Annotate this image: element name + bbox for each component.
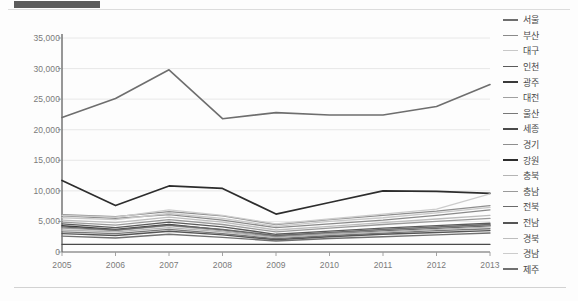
x-axis-label: 2009 — [253, 260, 299, 270]
x-axis-label: 2008 — [200, 260, 246, 270]
x-axis-label: 2010 — [307, 260, 353, 270]
x-axis-label: 2006 — [93, 260, 139, 270]
legend-label: 제주 — [523, 263, 539, 276]
legend-label: 전남 — [523, 216, 539, 229]
legend-color-swatch — [503, 206, 518, 207]
legend-color-swatch — [503, 97, 518, 98]
legend-label: 광주 — [523, 76, 539, 89]
chart-legend: 서울부산대구인천광주대전울산세종경기강원충북충남전북전남경북경남제주 — [503, 12, 578, 277]
legend-label: 인천 — [523, 60, 539, 73]
legend-color-swatch — [503, 253, 518, 254]
legend-item[interactable]: 충북 — [503, 168, 578, 184]
legend-item[interactable]: 전남 — [503, 215, 578, 231]
legend-label: 부산 — [523, 29, 539, 42]
legend-label: 경기 — [523, 138, 539, 151]
legend-item[interactable]: 강원 — [503, 152, 578, 168]
legend-item[interactable]: 광주 — [503, 74, 578, 90]
legend-label: 세종 — [523, 122, 539, 135]
legend-item[interactable]: 인천 — [503, 59, 578, 75]
legend-label: 충남 — [523, 185, 539, 198]
legend-color-swatch — [503, 81, 518, 83]
legend-item[interactable]: 울산 — [503, 106, 578, 122]
legend-color-swatch — [503, 159, 518, 161]
legend-color-swatch — [503, 238, 518, 239]
x-axis-label: 2007 — [146, 260, 192, 270]
x-axis-label: 2005 — [39, 260, 85, 270]
legend-label: 서울 — [523, 13, 539, 26]
x-axis-label: 2011 — [360, 260, 406, 270]
legend-label: 울산 — [523, 107, 539, 120]
legend-color-swatch — [503, 144, 518, 145]
legend-label: 경북 — [523, 232, 539, 245]
legend-color-swatch — [503, 128, 518, 130]
legend-label: 전북 — [523, 200, 539, 213]
legend-item[interactable]: 경북 — [503, 230, 578, 246]
legend-color-swatch — [503, 113, 518, 114]
legend-item[interactable]: 충남 — [503, 184, 578, 200]
legend-label: 대전 — [523, 91, 539, 104]
legend-item[interactable]: 제주 — [503, 262, 578, 278]
legend-color-swatch — [503, 35, 518, 36]
chart-page: 05,00010,00015,00020,00025,00030,00035,0… — [0, 0, 578, 301]
legend-label: 충북 — [523, 169, 539, 182]
x-axis-label: 2012 — [414, 260, 460, 270]
legend-label: 대구 — [523, 44, 539, 57]
legend-item[interactable]: 경기 — [503, 137, 578, 153]
legend-item[interactable]: 부산 — [503, 28, 578, 44]
legend-color-swatch — [503, 66, 518, 67]
legend-color-swatch — [503, 222, 518, 224]
legend-label: 강원 — [523, 154, 539, 167]
legend-item[interactable]: 전북 — [503, 199, 578, 215]
legend-item[interactable]: 대전 — [503, 90, 578, 106]
x-axis-ticks: 200520062007200820092010201120122013 — [0, 0, 500, 301]
legend-color-swatch — [503, 191, 518, 192]
legend-item[interactable]: 서울 — [503, 12, 578, 28]
legend-color-swatch — [503, 268, 518, 270]
line-chart: 05,00010,00015,00020,00025,00030,00035,0… — [0, 0, 500, 301]
legend-item[interactable]: 대구 — [503, 43, 578, 59]
legend-label: 경남 — [523, 247, 539, 260]
legend-color-swatch — [503, 50, 518, 51]
legend-item[interactable]: 경남 — [503, 246, 578, 262]
legend-color-swatch — [503, 175, 518, 176]
legend-color-swatch — [503, 19, 518, 21]
legend-item[interactable]: 세종 — [503, 121, 578, 137]
